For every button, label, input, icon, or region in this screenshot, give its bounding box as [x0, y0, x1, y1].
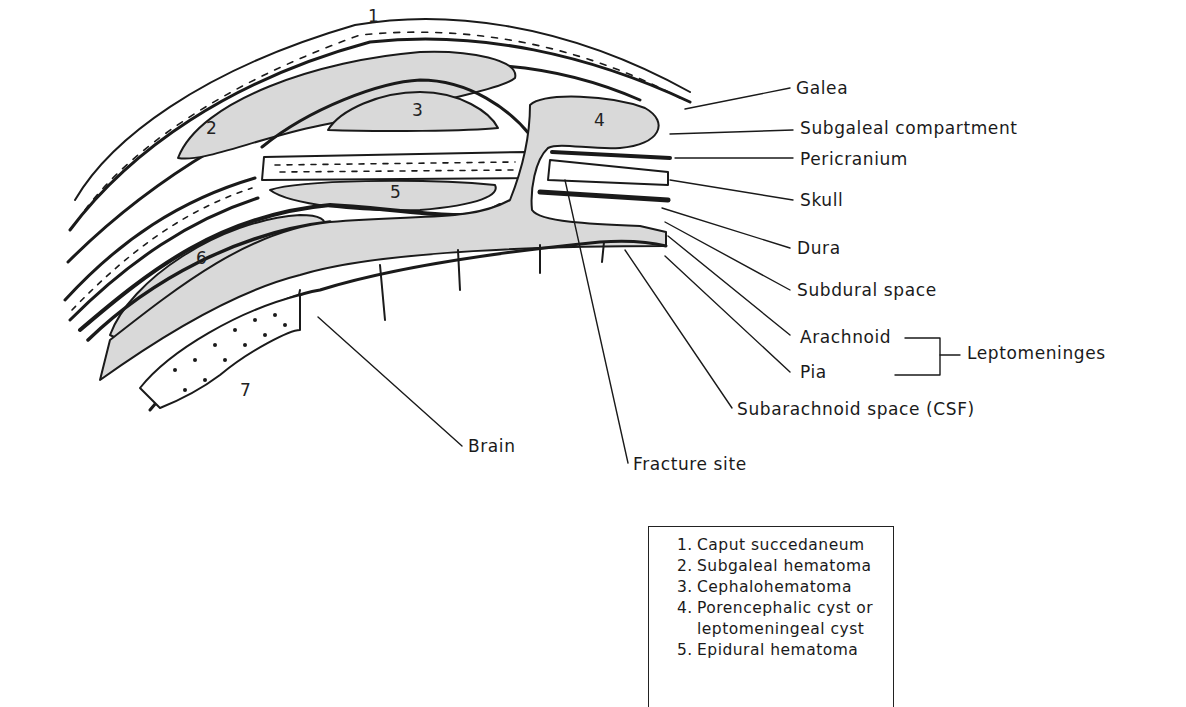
label-pia: Pia: [800, 362, 827, 382]
label-dura: Dura: [797, 238, 841, 258]
legend-box: 1.Caput succedaneum 2.Subgaleal hematoma…: [648, 526, 894, 707]
label-subarachnoid-space: Subarachnoid space (CSF): [737, 399, 975, 419]
label-subgaleal-compartment: Subgaleal compartment: [800, 118, 1018, 138]
legend-item: 5.Epidural hematoma: [677, 640, 893, 661]
label-number-6: 6: [196, 248, 207, 268]
legend-item: 4.Porencephalic cyst or: [677, 598, 893, 619]
label-number-5: 5: [390, 182, 401, 202]
label-number-3: 3: [412, 100, 423, 120]
skull-bone-band: [262, 152, 527, 180]
legend-item: leptomeningeal cyst: [677, 619, 893, 640]
label-number-2: 2: [206, 118, 217, 138]
label-pericranium: Pericranium: [800, 149, 908, 169]
label-galea: Galea: [796, 78, 848, 98]
label-subdural-space: Subdural space: [797, 280, 937, 300]
label-number-4: 4: [594, 110, 605, 130]
epidural-hematoma-5: [270, 181, 496, 210]
label-fracture-site: Fracture site: [633, 454, 747, 474]
label-arachnoid: Arachnoid: [800, 327, 891, 347]
label-brain: Brain: [468, 436, 516, 456]
label-number-7: 7: [240, 380, 251, 400]
porencephalic-cyst-4: [100, 97, 666, 380]
label-number-1: 1: [368, 6, 379, 26]
legend-item: 3.Cephalohematoma: [677, 577, 893, 598]
legend-item: 2.Subgaleal hematoma: [677, 556, 893, 577]
legend-item: 1.Caput succedaneum: [677, 535, 893, 556]
label-skull: Skull: [800, 190, 843, 210]
label-leptomeninges: Leptomeninges: [967, 343, 1106, 363]
